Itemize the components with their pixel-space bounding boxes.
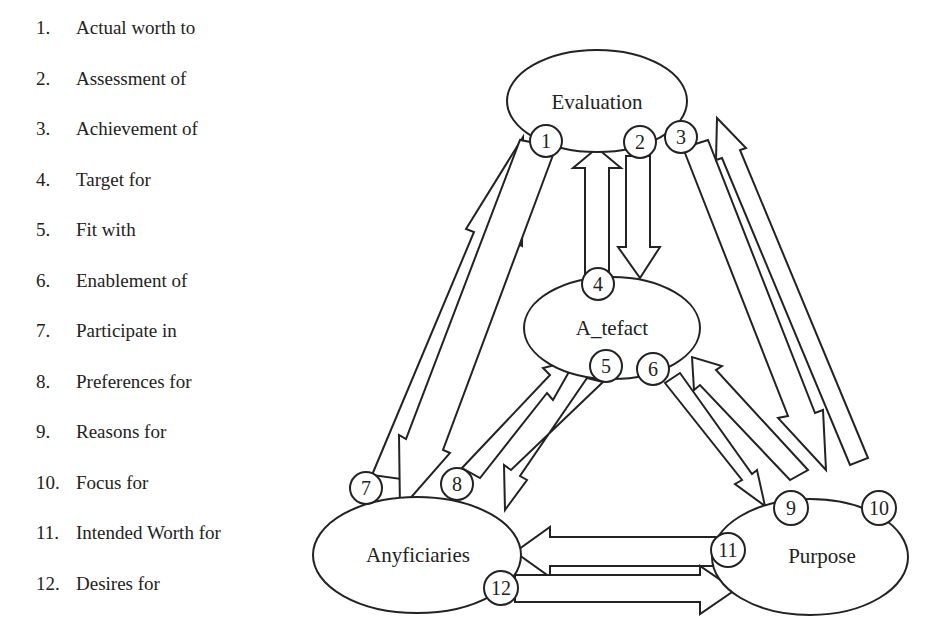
- marker-9-label: 9: [786, 497, 796, 519]
- marker-1-label: 1: [541, 130, 551, 152]
- marker-11-label: 11: [718, 539, 737, 561]
- node-artefact-label: A_tefact: [576, 316, 648, 340]
- relationship-diagram: Evaluation A_tefact Anyficiaries Purpose…: [0, 0, 941, 630]
- marker-5-label: 5: [601, 355, 611, 377]
- arrow-11-purpose-to-beneficiaries: [515, 527, 730, 577]
- marker-8-label: 8: [452, 473, 462, 495]
- marker-12-label: 12: [491, 577, 511, 599]
- marker-10-label: 10: [869, 497, 889, 519]
- node-beneficiaries-label: Anyficiaries: [366, 543, 470, 567]
- node-purpose-label: Purpose: [788, 544, 856, 568]
- marker-3-label: 3: [676, 126, 686, 148]
- marker-6-label: 6: [648, 358, 658, 380]
- arrow-artefact-to-evaluation: [573, 148, 621, 276]
- marker-7-label: 7: [361, 477, 371, 499]
- arrow-2-evaluation-to-artefact: [618, 156, 660, 278]
- node-evaluation-label: Evaluation: [552, 90, 643, 114]
- marker-4-label: 4: [593, 273, 603, 295]
- marker-2-label: 2: [635, 131, 645, 153]
